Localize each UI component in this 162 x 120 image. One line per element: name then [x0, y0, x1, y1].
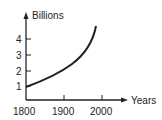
- y-tick-label-1: 1: [16, 81, 22, 92]
- y-axis-label: Billions: [32, 10, 64, 21]
- y-tick-label-2: 2: [16, 66, 22, 77]
- y-axis-arrow-icon: [24, 12, 29, 19]
- x-axis-arrow-icon: [121, 98, 128, 103]
- x-tick-label-2000: 2000: [90, 106, 113, 117]
- y-tick-label-4: 4: [16, 34, 22, 45]
- population-curve: [26, 26, 96, 87]
- y-tick-label-3: 3: [16, 50, 22, 61]
- x-tick-label-1800: 1800: [13, 106, 36, 117]
- x-tick-label-1900: 1900: [52, 106, 75, 117]
- x-axis-label: Years: [131, 95, 156, 106]
- population-chart: Billions Years 1 2 3 4 1800 1900 2000: [0, 0, 162, 120]
